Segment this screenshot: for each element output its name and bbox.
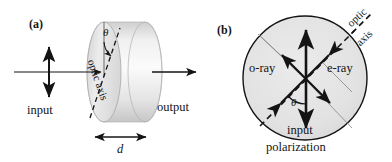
o-ray-label: o-ray xyxy=(249,62,275,75)
panel-a-output-label: output xyxy=(157,101,189,114)
panel-b-tag: (b) xyxy=(217,24,232,36)
figure-canvas xyxy=(0,0,392,162)
panel-a-theta-symbol: θ xyxy=(103,27,108,38)
e-ray-label: e-ray xyxy=(327,62,353,75)
thickness-label-d: d xyxy=(117,143,123,156)
panel-b-polarization-label: polarization xyxy=(266,141,326,154)
panel-b-input-label: input xyxy=(287,124,313,137)
panel-b-theta-symbol: θ xyxy=(291,97,296,108)
panel-a-tag: (a) xyxy=(29,18,43,30)
optics-figure: (a) input output θ optic axis d (b) opti… xyxy=(0,0,392,162)
panel-a-input-label: input xyxy=(27,104,53,117)
